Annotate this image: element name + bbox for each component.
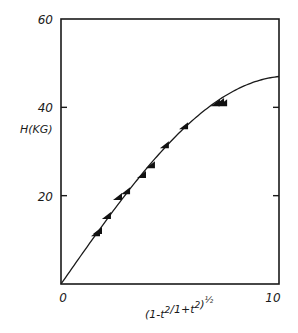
x-title-superscript: ½ [205,295,214,305]
y-axis-title: H(KG) [20,123,53,136]
data-point [160,141,169,148]
y-tick-label: 20 [38,190,54,204]
y-tick-label: 40 [38,101,54,115]
y-tick-label: 60 [38,13,54,27]
data-point [179,122,188,129]
plot-area [61,19,279,284]
data-point [137,171,146,178]
x-tick-label: 10 [265,291,281,305]
data-point [146,161,155,168]
data-point [93,227,102,234]
x-tick-label: 0 [59,291,67,305]
plot-frame [61,19,279,284]
data-markers [91,98,227,236]
x-axis-title: (1-t2/1+t2)½ [145,295,214,321]
chart: H(KG) (1-t2/1+t2)½ 204060010 [0,0,298,333]
x-title-text: (1-t [145,308,165,321]
data-point [121,187,130,194]
data-point [102,212,111,219]
x-title-text: /1+t [169,303,195,316]
data-point [113,193,122,200]
fit-curve-line [61,77,279,285]
